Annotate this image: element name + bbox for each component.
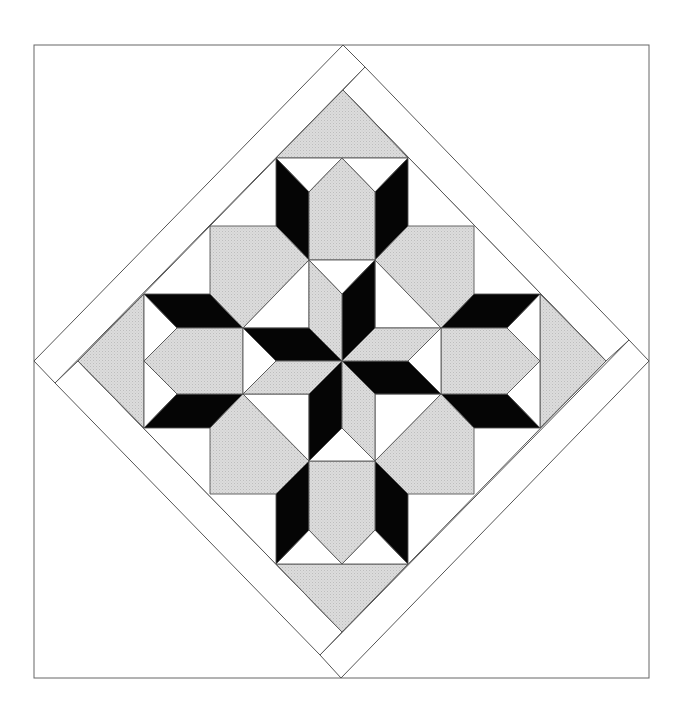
quilt-block-diagram [0,0,686,718]
quilt-block-svg [0,0,686,718]
